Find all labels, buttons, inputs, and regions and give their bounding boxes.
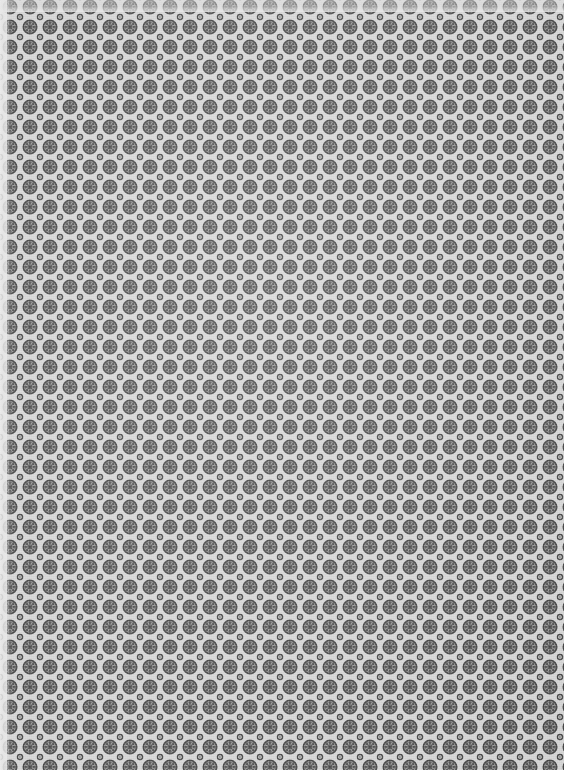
illumination-layer xyxy=(0,0,564,770)
weave-texture-layer xyxy=(0,0,564,770)
scan-grain-layer xyxy=(0,0,564,770)
small-ring-motif-layer xyxy=(0,0,564,770)
top-edge-wash xyxy=(0,0,564,5)
left-edge-wash xyxy=(0,0,11,770)
pattern-swatch xyxy=(0,0,564,770)
bottom-edge-wash xyxy=(0,0,564,12)
rosette-motif-layer xyxy=(0,0,564,770)
right-edge-wash xyxy=(0,0,7,770)
